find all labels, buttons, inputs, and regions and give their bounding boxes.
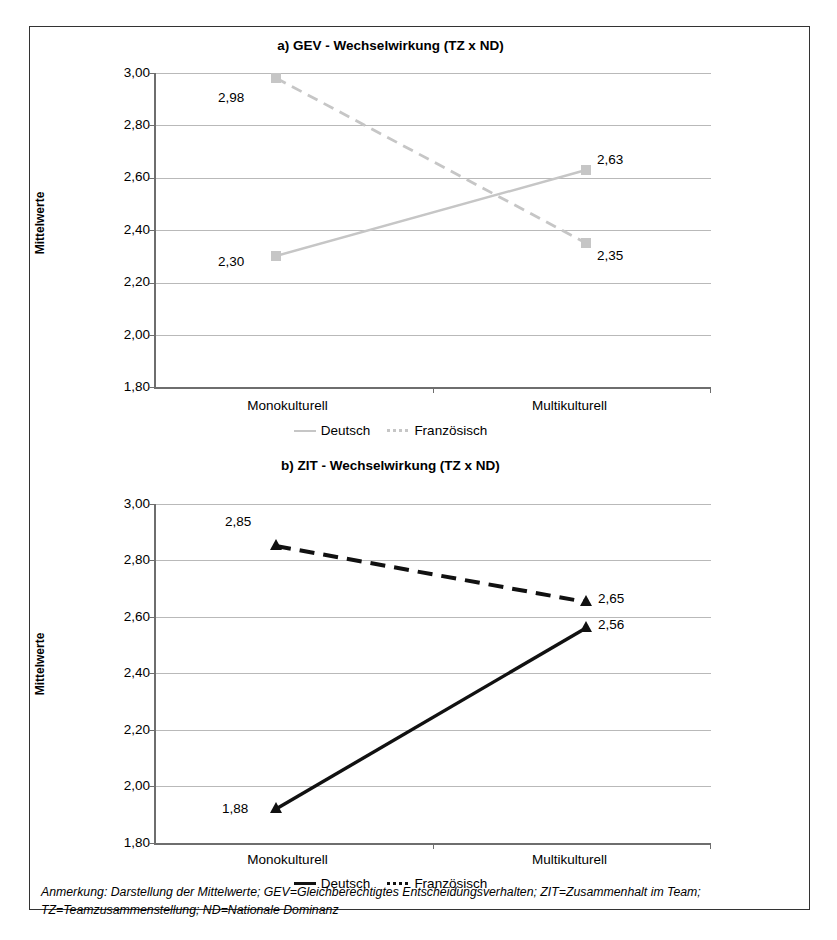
chart-a-plot (0, 26, 781, 451)
chart-panel-b: b) ZIT - Wechselwirkung (TZ x ND) Mittel… (0, 452, 781, 892)
chart-a-series-franzoesisch-line (276, 78, 586, 243)
chart-a-legend-item-franzoesisch[interactable]: Französisch (387, 423, 487, 438)
chart-a-marker-deutsch-multi (581, 165, 591, 175)
chart-a-legend-item-deutsch[interactable]: Deutsch (294, 423, 371, 438)
line-swatch-solid-icon (294, 430, 316, 432)
chart-b-xlabel-monokulturell: Monokulturell (205, 852, 370, 867)
chart-a-legend: Deutsch Französisch (0, 423, 781, 438)
chart-a-marker-deutsch-mono (271, 251, 281, 261)
chart-a-xlabel-monokulturell: Monokulturell (205, 398, 370, 413)
figure-page: a) GEV - Wechselwirkung (TZ x ND) Mittel… (0, 0, 837, 940)
chart-b-datalabel-deutsch-multi: 2,56 (598, 617, 624, 632)
chart-a-legend-label-franzoesisch: Französisch (414, 423, 487, 438)
chart-a-datalabel-deutsch-mono: 2,30 (218, 254, 244, 269)
chart-a-series-deutsch-line (276, 170, 586, 256)
chart-a-marker-franzoesisch-mono (271, 73, 281, 83)
chart-b-marker-franzoesisch-mono (270, 539, 282, 550)
chart-a-datalabel-deutsch-multi: 2,63 (597, 152, 623, 167)
figure-note: Anmerkung: Darstellung der Mittelwerte; … (41, 884, 798, 920)
chart-panel-a: a) GEV - Wechselwirkung (TZ x ND) Mittel… (0, 26, 781, 451)
chart-a-xlabel-multikulturell: Multikulturell (487, 398, 652, 413)
chart-b-datalabel-franzoesisch-multi: 2,65 (598, 591, 624, 606)
chart-b-datalabel-deutsch-mono: 1,88 (222, 801, 248, 816)
chart-b-xlabel-multikulturell: Multikulturell (487, 852, 652, 867)
chart-a-datalabel-franzoesisch-mono: 2,98 (218, 90, 244, 105)
chart-b-datalabel-franzoesisch-mono: 2,85 (225, 514, 251, 529)
chart-b-marker-franzoesisch-multi (580, 595, 592, 606)
line-swatch-dotted-icon (387, 429, 409, 432)
chart-b-plot (0, 452, 781, 892)
chart-b-series-franzoesisch-line (276, 546, 586, 602)
chart-a-datalabel-franzoesisch-multi: 2,35 (597, 248, 623, 263)
chart-a-legend-label-deutsch: Deutsch (321, 423, 371, 438)
chart-b-marker-deutsch-multi (580, 621, 592, 632)
chart-b-series-deutsch-line (276, 628, 586, 809)
chart-a-marker-franzoesisch-multi (581, 238, 591, 248)
